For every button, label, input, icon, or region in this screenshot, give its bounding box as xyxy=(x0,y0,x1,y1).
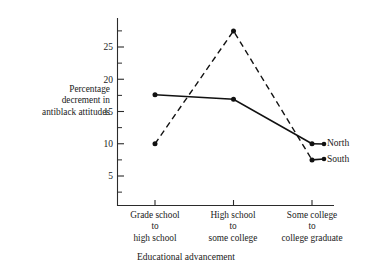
y-axis-title-line-3: antiblack attitudes xyxy=(42,107,110,117)
series-layer xyxy=(155,31,312,160)
data-point-south-0 xyxy=(153,141,158,146)
y-tick-label: 25 xyxy=(104,42,114,52)
y-axis-title: Percentage decrement in antiblack attitu… xyxy=(14,84,110,118)
data-point-north-0 xyxy=(153,92,158,97)
leader-marker-south xyxy=(322,157,327,162)
line-chart-figure: 510152025 Percentage decrement in antibl… xyxy=(0,0,372,274)
y-tick-label: 5 xyxy=(108,171,113,181)
series-label-south: South xyxy=(327,154,349,164)
y-axis-title-line-1: Percentage xyxy=(69,84,110,94)
data-point-south-1 xyxy=(231,28,236,33)
x-category-2-line-1: Some college xyxy=(264,210,360,221)
x-category-2-line-3: college graduate xyxy=(264,233,360,244)
y-axis-ticks xyxy=(118,31,125,192)
y-axis-title-line-2: decrement in xyxy=(62,95,110,105)
y-tick-label: 10 xyxy=(104,139,114,149)
x-category-label-2: Some college to college graduate xyxy=(264,210,360,244)
leader-marker-north xyxy=(322,142,327,147)
x-axis-title: Educational advancement xyxy=(0,252,372,262)
series-line-north xyxy=(155,95,312,144)
data-point-north-1 xyxy=(231,97,236,102)
x-axis-ticks xyxy=(155,200,312,206)
x-category-2-line-2: to xyxy=(264,221,360,232)
series-label-north: North xyxy=(327,138,349,148)
